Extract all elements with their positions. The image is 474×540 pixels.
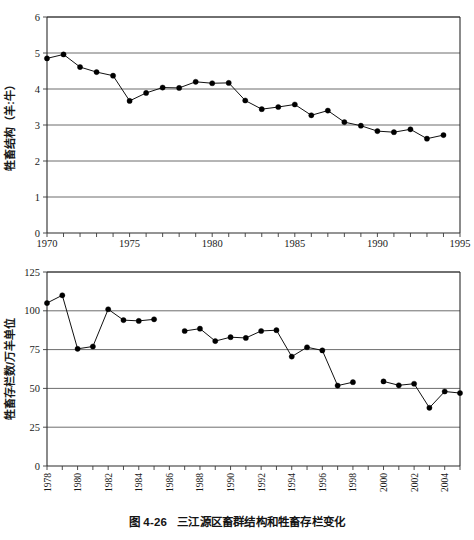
y-tick-label: 5 — [35, 48, 40, 59]
y-tick-label: 6 — [35, 12, 40, 23]
data-point-marker — [110, 73, 115, 78]
x-tick-label: 1988 — [195, 473, 205, 492]
x-tick-label: 1995 — [450, 238, 471, 249]
data-point-marker — [350, 380, 355, 385]
data-point-marker — [259, 107, 264, 112]
data-point-marker — [274, 328, 279, 333]
x-tick-label: 1990 — [226, 473, 236, 492]
data-point-marker — [121, 318, 126, 323]
data-point-marker — [427, 405, 432, 410]
x-tick-label: 1984 — [134, 473, 144, 492]
data-point-marker — [320, 348, 325, 353]
y-tick-label: 0 — [35, 461, 40, 472]
livestock-structure-plot: 0123456197019751980198519901995牲畜结构（羊:牛） — [0, 0, 474, 258]
data-point-marker — [335, 383, 340, 388]
x-tick-label: 1980 — [73, 473, 83, 492]
y-axis-title: 牲畜存栏数/万羊单位 — [3, 318, 16, 420]
y-tick-label: 2 — [35, 156, 40, 167]
x-tick-label: 1975 — [119, 238, 140, 249]
data-point-marker — [441, 132, 446, 137]
x-tick-label: 1978 — [43, 473, 53, 492]
data-point-marker — [182, 328, 187, 333]
data-point-marker — [226, 80, 231, 85]
data-point-marker — [136, 318, 141, 323]
data-point-marker — [259, 328, 264, 333]
figure-caption: 图 4-26 三江源区畜群结构和牲畜存栏变化 — [0, 513, 474, 529]
data-point-marker — [106, 307, 111, 312]
livestock-stock-plot: 0255075100125197819801982198419861988199… — [0, 258, 474, 513]
data-point-marker — [309, 113, 314, 118]
data-point-marker — [44, 56, 49, 61]
data-point-marker — [197, 326, 202, 331]
data-point-marker — [325, 108, 330, 113]
y-tick-label: 1 — [35, 192, 40, 203]
x-tick-label: 1994 — [287, 473, 297, 492]
x-tick-label: 2002 — [410, 473, 420, 492]
data-point-marker — [358, 123, 363, 128]
chart-livestock-structure: 0123456197019751980198519901995牲畜结构（羊:牛） — [0, 0, 474, 258]
y-tick-label: 75 — [30, 344, 41, 355]
data-point-marker — [408, 127, 413, 132]
data-point-marker — [90, 344, 95, 349]
data-point-marker — [442, 389, 447, 394]
data-point-marker — [94, 69, 99, 74]
y-tick-label: 3 — [35, 120, 40, 131]
data-point-marker — [289, 354, 294, 359]
data-point-marker — [144, 90, 149, 95]
y-tick-label: 25 — [30, 422, 41, 433]
data-point-marker — [396, 383, 401, 388]
data-series-line — [47, 54, 443, 138]
y-tick-label: 125 — [24, 267, 40, 278]
data-point-marker — [424, 136, 429, 141]
chart-livestock-stock: 0255075100125197819801982198419861988199… — [0, 258, 474, 513]
data-point-marker — [391, 130, 396, 135]
data-point-marker — [276, 104, 281, 109]
data-point-marker — [61, 52, 66, 57]
data-point-marker — [243, 335, 248, 340]
data-point-marker — [160, 85, 165, 90]
data-point-marker — [44, 300, 49, 305]
data-point-marker — [77, 64, 82, 69]
data-point-marker — [304, 345, 309, 350]
data-point-marker — [210, 81, 215, 86]
x-tick-label: 2004 — [440, 473, 450, 492]
y-tick-label: 4 — [35, 84, 41, 95]
y-tick-label: 50 — [30, 383, 41, 394]
x-tick-label: 1970 — [37, 238, 58, 249]
data-point-marker — [375, 129, 380, 134]
y-tick-label: 0 — [35, 228, 40, 239]
data-point-marker — [457, 390, 462, 395]
data-point-marker — [60, 293, 65, 298]
data-point-marker — [292, 102, 297, 107]
data-point-marker — [75, 346, 80, 351]
data-series-line — [185, 329, 353, 386]
figure-container: 0123456197019751980198519901995牲畜结构（羊:牛）… — [0, 0, 474, 540]
x-tick-label: 1985 — [284, 238, 305, 249]
x-tick-label: 1986 — [165, 473, 175, 492]
x-tick-label: 1992 — [257, 473, 267, 492]
x-tick-label: 1982 — [104, 473, 114, 492]
data-series-line — [384, 381, 460, 407]
y-axis-title: 牲畜结构（羊:牛） — [3, 79, 16, 171]
x-tick-label: 1990 — [367, 238, 388, 249]
data-point-marker — [228, 335, 233, 340]
data-point-marker — [412, 381, 417, 386]
data-point-marker — [177, 85, 182, 90]
x-tick-label: 1980 — [202, 238, 223, 249]
data-point-marker — [151, 317, 156, 322]
data-point-marker — [342, 120, 347, 125]
data-point-marker — [213, 338, 218, 343]
x-tick-label: 1998 — [348, 473, 358, 492]
x-tick-label: 2000 — [379, 473, 389, 492]
data-point-marker — [381, 379, 386, 384]
data-point-marker — [243, 98, 248, 103]
data-point-marker — [127, 98, 132, 103]
y-tick-label: 100 — [24, 305, 40, 316]
x-tick-label: 1996 — [318, 473, 328, 492]
data-point-marker — [193, 79, 198, 84]
